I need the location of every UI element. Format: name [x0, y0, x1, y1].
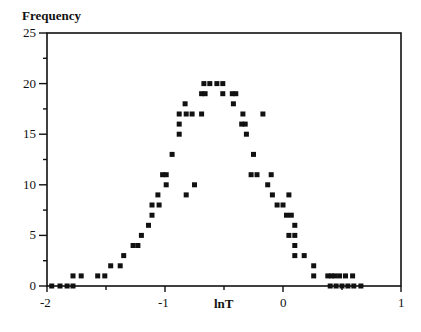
data-point [340, 284, 345, 289]
data-point [265, 182, 270, 187]
axis-ticks [39, 33, 401, 292]
data-point [240, 112, 245, 117]
x-tick-label: -2 [40, 295, 51, 311]
data-point [351, 284, 356, 289]
data-point [150, 213, 155, 218]
data-point [286, 192, 291, 197]
data-point [231, 101, 236, 106]
data-point [244, 132, 249, 137]
data-point [135, 243, 140, 248]
data-point [177, 112, 182, 117]
data-point [49, 284, 54, 289]
x-axis-title: lnT [214, 296, 234, 312]
data-point [170, 152, 175, 157]
data-point [281, 203, 286, 208]
data-point [177, 122, 182, 127]
x-tick-label: 1 [398, 295, 405, 311]
data-points [49, 81, 363, 288]
data-point [95, 273, 100, 278]
data-point [192, 182, 197, 187]
data-point [201, 81, 206, 86]
data-point [207, 81, 212, 86]
data-point [302, 253, 307, 258]
data-point [157, 203, 162, 208]
data-point [269, 172, 274, 177]
data-point [118, 263, 123, 268]
data-point [255, 172, 260, 177]
data-point [139, 233, 144, 238]
data-point [284, 213, 289, 218]
data-point [289, 213, 294, 218]
data-point [243, 122, 248, 127]
y-tick-label: 20 [23, 76, 36, 92]
data-point [183, 101, 188, 106]
data-point [177, 132, 182, 137]
data-point [343, 273, 348, 278]
data-point [164, 172, 169, 177]
data-point [184, 112, 189, 117]
data-point [345, 284, 350, 289]
data-point [292, 233, 297, 238]
data-point [199, 112, 204, 117]
data-point [251, 152, 256, 157]
data-point [203, 91, 208, 96]
data-point [233, 91, 238, 96]
data-point [249, 172, 254, 177]
data-point [350, 273, 355, 278]
data-point [131, 243, 136, 248]
data-point [71, 284, 76, 289]
data-point [220, 81, 225, 86]
data-point [334, 284, 339, 289]
data-point [275, 203, 280, 208]
data-point [65, 284, 70, 289]
data-point [155, 192, 160, 197]
data-point [102, 273, 107, 278]
data-point [260, 112, 265, 117]
data-point [270, 192, 275, 197]
y-tick-label: 5 [30, 227, 37, 243]
data-point [121, 253, 126, 258]
data-point [71, 273, 76, 278]
y-axis-title: Frequency [22, 8, 81, 24]
data-point [58, 284, 63, 289]
data-point [220, 91, 225, 96]
y-tick-label: 10 [23, 177, 36, 193]
plot-frame [47, 33, 401, 286]
data-point [337, 273, 342, 278]
data-point [292, 253, 297, 258]
data-point [292, 223, 297, 228]
data-point [358, 284, 363, 289]
data-point [286, 233, 291, 238]
data-point [184, 192, 189, 197]
data-point [311, 263, 316, 268]
x-tick-label: 0 [280, 295, 287, 311]
data-point [214, 81, 219, 86]
y-tick-label: 25 [23, 25, 36, 41]
data-point [146, 223, 151, 228]
data-point [328, 284, 333, 289]
data-point [292, 243, 297, 248]
data-point [311, 273, 316, 278]
scatter-plot [0, 0, 421, 332]
y-tick-label: 15 [23, 126, 36, 142]
data-point [150, 203, 155, 208]
data-point [164, 182, 169, 187]
data-point [108, 263, 113, 268]
data-point [190, 112, 195, 117]
y-tick-label: 0 [30, 278, 37, 294]
data-point [79, 273, 84, 278]
x-tick-label: -1 [158, 295, 169, 311]
data-point [332, 273, 337, 278]
